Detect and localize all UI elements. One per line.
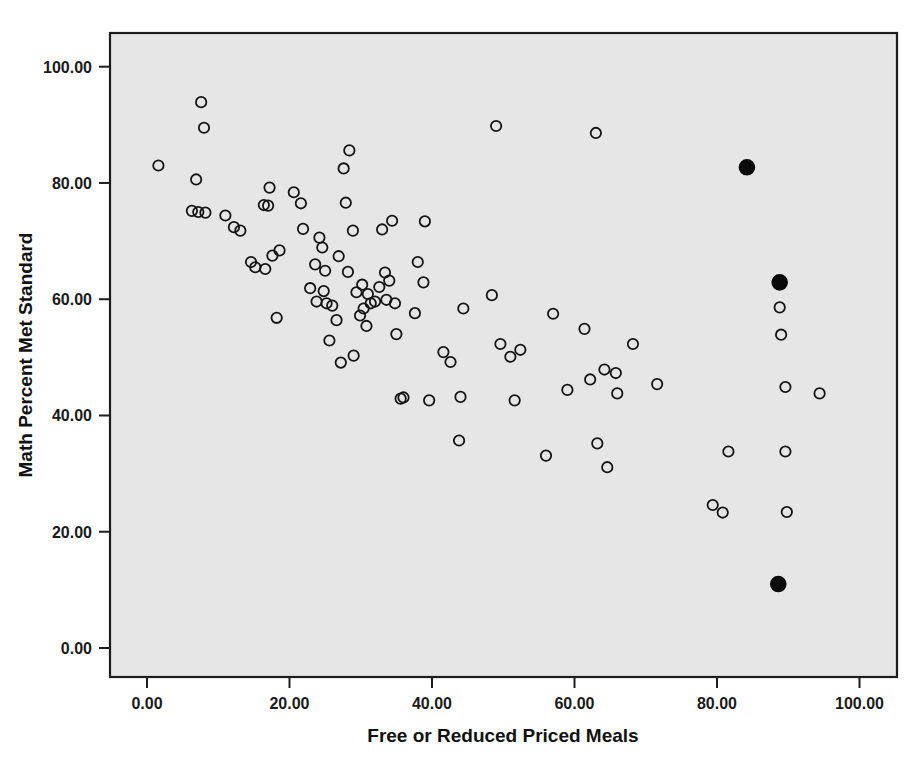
x-tick-label: 0.00 (131, 695, 162, 712)
data-point-filled (739, 160, 754, 175)
x-tick-label: 60.00 (554, 695, 594, 712)
y-axis-title: Math Percent Met Standard (15, 233, 36, 478)
y-tick-label: 0.00 (61, 640, 92, 657)
x-tick-label: 100.00 (835, 695, 884, 712)
y-tick-label: 60.00 (52, 291, 92, 308)
x-tick-label: 40.00 (412, 695, 452, 712)
y-tick-label: 80.00 (52, 175, 92, 192)
y-tick-label: 20.00 (52, 524, 92, 541)
chart-canvas: 0.0020.0040.0060.0080.00100.00 0.0020.00… (0, 0, 919, 766)
x-tick-label: 20.00 (269, 695, 309, 712)
data-point-filled (771, 577, 786, 592)
scatter-plot-figure: 0.0020.0040.0060.0080.00100.00 0.0020.00… (0, 0, 919, 766)
x-tick-label: 80.00 (697, 695, 737, 712)
y-tick-label: 40.00 (52, 407, 92, 424)
data-point-filled (772, 275, 787, 290)
y-axis-tick-labels: 0.0020.0040.0060.0080.00100.00 (43, 59, 92, 657)
x-axis-tick-labels: 0.0020.0040.0060.0080.00100.00 (131, 695, 884, 712)
x-axis-title: Free or Reduced Priced Meals (367, 725, 638, 746)
y-tick-label: 100.00 (43, 59, 92, 76)
